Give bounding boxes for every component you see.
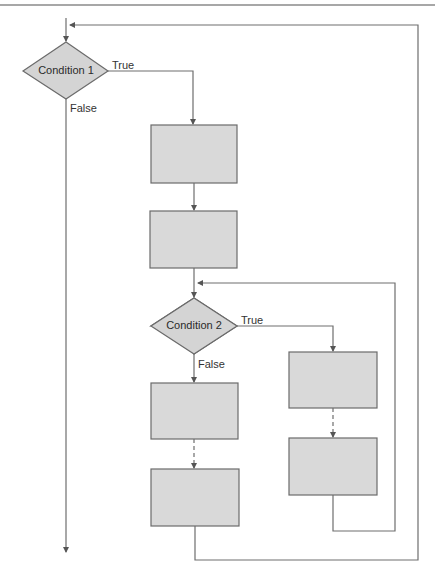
process-box-1 bbox=[151, 125, 237, 183]
process-box-2 bbox=[150, 211, 237, 268]
process-box-6 bbox=[289, 438, 377, 495]
process-box-3 bbox=[151, 383, 238, 439]
condition-2-true-connector bbox=[237, 326, 333, 351]
flowchart-canvas bbox=[0, 0, 435, 572]
process-box-4 bbox=[151, 469, 239, 526]
process-box-5 bbox=[289, 352, 377, 408]
condition-1-false-label: False bbox=[70, 103, 97, 114]
condition-2-false-label: False bbox=[198, 359, 225, 370]
condition-1-label: Condition 1 bbox=[23, 65, 109, 76]
condition-2-true-label: True bbox=[241, 315, 263, 326]
condition-2-label: Condition 2 bbox=[151, 320, 237, 331]
condition-1-true-label: True bbox=[112, 60, 134, 71]
condition-1-true-connector bbox=[108, 71, 193, 124]
